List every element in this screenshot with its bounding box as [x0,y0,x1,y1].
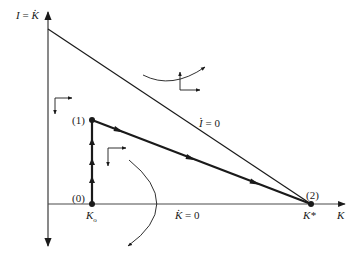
y-axis-label: I = K [16,10,39,21]
point-0 [89,201,95,207]
point-1 [89,117,95,123]
curved-arrow-upper [143,67,205,81]
k-dot-eq: = 0 [185,209,199,221]
i-dot-var: I [199,118,203,129]
y-axis-label-eq: = [22,9,28,21]
trajectory-diagonal [92,120,311,204]
k-dot-var: K [175,210,182,221]
direction-indicator-left [55,98,72,114]
k-naught-label: Ko [86,210,97,224]
k-naught-sub: o [93,216,97,224]
y-axis-label-i: I [16,9,20,21]
i-dot-zero-label: I = 0 [199,118,220,129]
phase-diagram [0,0,355,261]
i-dot-eq: = 0 [205,117,219,129]
arrow-right-icon [114,126,125,133]
k-dot-zero-label: K = 0 [175,210,200,221]
curved-arrow-lower [128,160,157,246]
y-axis-label-kdot: K [31,10,38,21]
arrow-up-icon [89,176,95,183]
trajectory-vertical [89,120,95,204]
i-dot-zero-line [48,29,311,204]
k-star-label: K* [303,210,316,221]
point-2-label: (2) [306,190,319,201]
direction-indicator-upper-right [180,72,200,90]
arrow-right-icon [186,154,197,160]
x-axis-label: K [337,210,344,221]
arrow-up-icon [89,158,95,165]
direction-indicator-middle [108,148,126,166]
arrow-up-icon [89,138,95,145]
point-1-label: (1) [72,115,85,126]
arrow-right-icon [250,179,261,185]
point-0-label: (0) [72,193,85,204]
point-2 [308,201,314,207]
